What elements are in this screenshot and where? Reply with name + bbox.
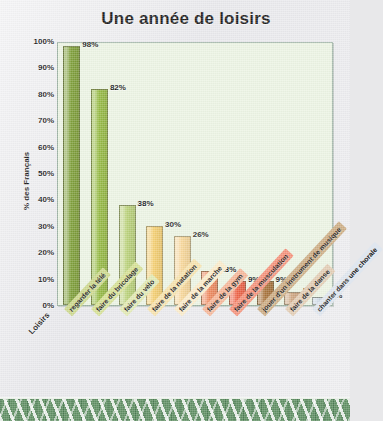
bar-value-label: 9% — [276, 275, 288, 284]
plot-frame: 98%82%38%30%26%13%9%9%5%3% — [57, 42, 333, 306]
bar — [229, 281, 246, 305]
bar — [63, 46, 80, 305]
y-axis-tick-label: 60% — [26, 143, 54, 152]
bar — [284, 292, 301, 305]
y-axis-tick-label: 90% — [26, 63, 54, 72]
decorative-bottom-border — [0, 399, 350, 421]
bar-shading — [92, 90, 107, 304]
y-axis-tick-label: 100% — [26, 37, 54, 46]
bar-value-label: 5% — [303, 286, 315, 295]
bar-shading — [175, 237, 190, 304]
bar-shading — [313, 298, 328, 304]
bar-value-label: 82% — [110, 83, 126, 92]
y-axis-title: % des Français — [22, 152, 31, 210]
bar-value-label: 38% — [138, 199, 154, 208]
bar — [257, 281, 274, 305]
bar-shading — [285, 293, 300, 304]
bar-shading — [258, 282, 273, 304]
bar — [119, 205, 136, 305]
y-axis-tick-label: 30% — [26, 222, 54, 231]
bar-shading — [64, 47, 79, 304]
bar-value-label: 26% — [193, 230, 209, 239]
bar-value-label: 30% — [165, 220, 181, 229]
x-axis-title: Loisirs — [27, 311, 51, 336]
bar-shading — [147, 227, 162, 304]
bar-shading — [230, 282, 245, 304]
bar-value-label: 98% — [82, 40, 98, 49]
bar — [312, 297, 329, 305]
y-axis-tick-label: 80% — [26, 90, 54, 99]
bar — [91, 89, 108, 305]
chart-title: Une année de loisirs — [0, 9, 350, 29]
bar — [201, 271, 218, 305]
plot-area: 98%82%38%30%26%13%9%9%5%3% — [58, 43, 332, 305]
y-axis-tick-label: 20% — [26, 248, 54, 257]
bar — [174, 236, 191, 305]
y-axis-tick-label: 70% — [26, 116, 54, 125]
bar-value-label: 3% — [331, 291, 343, 300]
bar — [146, 226, 163, 305]
y-axis-tick-label: 10% — [26, 275, 54, 284]
bar-shading — [202, 272, 217, 304]
y-axis-tick-label: 0% — [26, 301, 54, 310]
bar-value-label: 13% — [220, 265, 236, 274]
bar-shading — [120, 206, 135, 304]
